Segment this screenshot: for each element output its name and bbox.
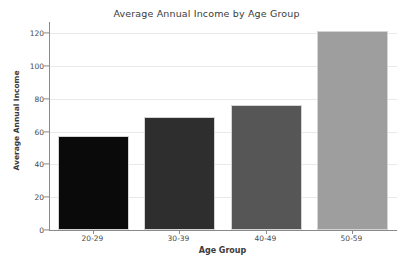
y-tick-label-120: 120 <box>18 29 44 38</box>
y-tick-label-100: 100 <box>18 61 44 70</box>
y-tick-label-20: 20 <box>18 193 44 202</box>
y-axis-label: Average Annual Income <box>12 46 21 196</box>
y-tick-label-0: 0 <box>18 226 44 235</box>
y-tick-label-60: 60 <box>18 127 44 136</box>
bar-30-39[interactable] <box>144 117 215 230</box>
y-tick-label-80: 80 <box>18 94 44 103</box>
plot-area <box>49 22 397 231</box>
chart-title: Average Annual Income by Age Group <box>0 8 413 19</box>
y-tick-label-40: 40 <box>18 160 44 169</box>
chart-figure: Average Annual Income by Age Group 0 20 … <box>0 0 413 265</box>
x-tick-label-30-39: 30-39 <box>168 234 190 243</box>
x-tick-label-40-49: 40-49 <box>255 234 277 243</box>
bar-50-59[interactable] <box>317 31 388 230</box>
x-tick-label-20-29: 20-29 <box>82 234 104 243</box>
x-axis-label: Age Group <box>49 246 396 255</box>
bar-40-49[interactable] <box>231 105 302 230</box>
bar-20-29[interactable] <box>58 136 129 230</box>
x-tick-label-50-59: 50-59 <box>341 234 363 243</box>
